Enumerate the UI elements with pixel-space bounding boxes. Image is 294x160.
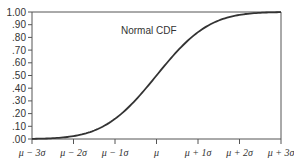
normal-cdf-chart: 1.00.90.80.70.60.50.40.30.20.10.00 μ − 3… <box>0 0 294 160</box>
x-tick-label: μ + 2σ <box>225 147 254 158</box>
x-tick-label: μ + 3σ <box>267 147 294 158</box>
x-axis: μ − 3σμ − 2σμ − 1σμμ + 1σμ + 2σμ + 3σ <box>18 139 294 158</box>
x-tick-label: μ − 2σ <box>59 147 88 158</box>
x-tick-label: μ − 1σ <box>101 147 130 158</box>
y-tick-label: .90 <box>12 19 26 30</box>
y-tick-label: .10 <box>12 121 26 132</box>
y-tick-label: .30 <box>12 95 26 106</box>
y-axis: 1.00.90.80.70.60.50.40.30.20.10.00 <box>7 7 32 145</box>
y-tick-label: .50 <box>12 70 26 81</box>
x-tick-label: μ + 1σ <box>184 147 213 158</box>
y-tick-label: .20 <box>12 108 26 119</box>
x-tick-label: μ − 3σ <box>18 147 47 158</box>
x-tick-label: μ <box>153 147 159 158</box>
y-tick-label: .60 <box>12 57 26 68</box>
y-tick-label: .40 <box>12 83 26 94</box>
y-tick-label: .00 <box>12 134 26 145</box>
y-tick-label: .80 <box>12 32 26 43</box>
y-tick-label: .70 <box>12 45 26 56</box>
y-tick-label: 1.00 <box>7 7 27 18</box>
curve-annotation: Normal CDF <box>121 25 177 36</box>
